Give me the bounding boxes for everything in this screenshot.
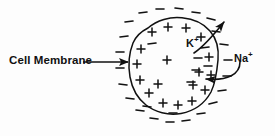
sodium-ion-label: Na+ xyxy=(234,51,253,64)
potassium-charge-superscript: + xyxy=(194,35,199,44)
sodium-symbol: Na xyxy=(234,52,248,64)
intracellular-positive-charges xyxy=(133,23,215,109)
sodium-charge-superscript: + xyxy=(248,50,253,59)
cell-membrane-diagram: Cell Membrane K+ Na+ xyxy=(0,0,275,136)
cell-membrane-label: Cell Membrane xyxy=(9,55,92,67)
potassium-ion-label: K+ xyxy=(186,36,199,49)
potassium-symbol: K xyxy=(186,37,194,49)
diagram-canvas xyxy=(0,0,275,136)
